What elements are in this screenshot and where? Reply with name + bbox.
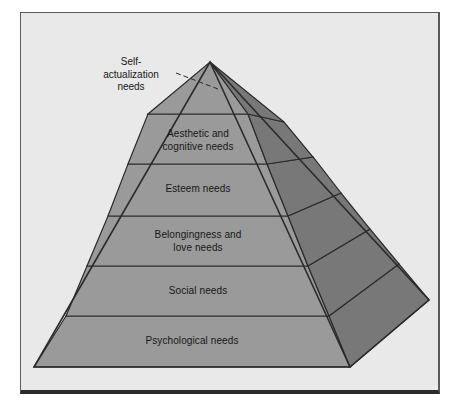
tier-band-psychological — [34, 316, 350, 367]
pyramid-diagram — [0, 0, 458, 419]
figure-root: Self- actualization needs Aesthetic and … — [0, 0, 458, 419]
tier-band-belongingness — [87, 216, 308, 266]
tier-band-social — [66, 266, 329, 316]
callout-label-self-actualization: Self- actualization needs — [88, 56, 174, 94]
